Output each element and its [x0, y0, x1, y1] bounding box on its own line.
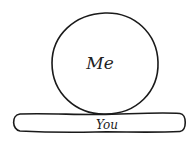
me-circle: Me [52, 13, 158, 114]
you-pill: You [14, 113, 186, 132]
diagram-canvas: Me You [0, 0, 196, 144]
me-label: Me [85, 53, 113, 73]
you-label: You [96, 118, 118, 132]
